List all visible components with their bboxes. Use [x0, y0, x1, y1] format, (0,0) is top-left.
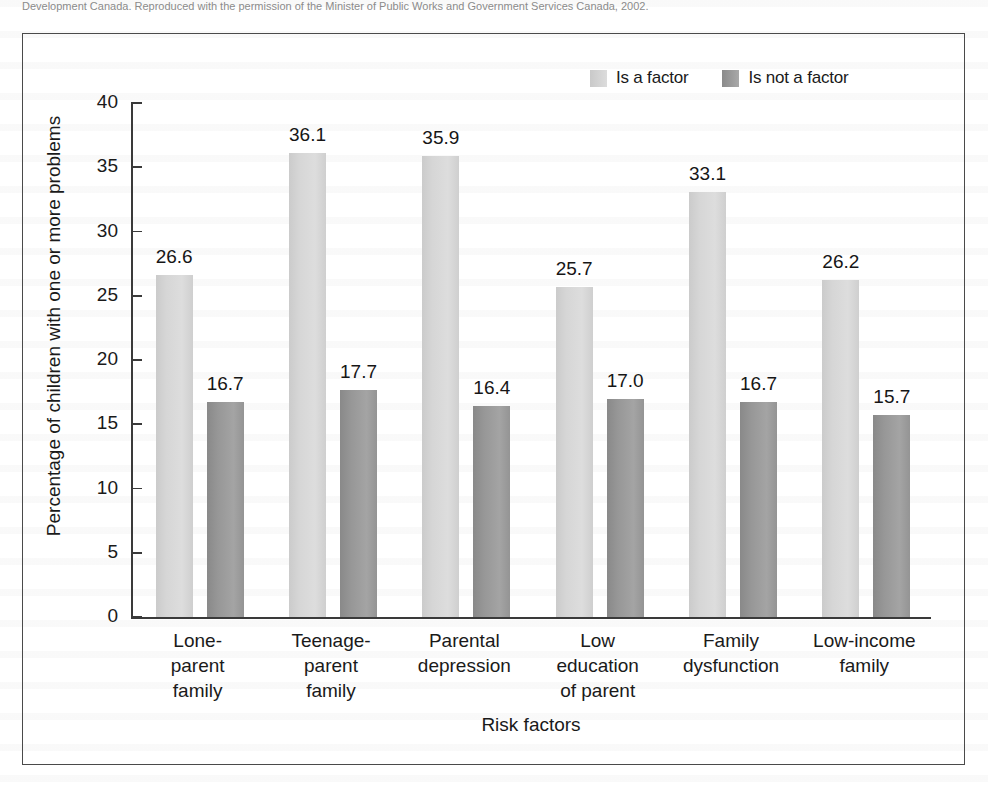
legend-label-is-not-a-factor: Is not a factor — [748, 68, 848, 88]
bar-is-a-factor-3[interactable]: 25.7 — [556, 287, 593, 617]
category-label-line: depression — [398, 653, 531, 678]
bar-value-label: 26.6 — [156, 246, 193, 268]
y-axis-tick-25 — [131, 295, 142, 297]
category-label-line: Teenage- — [264, 628, 397, 653]
bar-is-a-factor-2[interactable]: 35.9 — [422, 156, 459, 617]
y-axis-tick-label-35: 35 — [58, 155, 118, 177]
y-axis-tick-label-25: 25 — [58, 284, 118, 306]
bar-value-label: 36.1 — [289, 124, 326, 146]
x-axis-category-label-2: Parentaldepression — [398, 628, 531, 678]
x-axis-category-label-0: Lone-parentfamily — [131, 628, 264, 703]
x-axis-category-label-5: Low-incomefamily — [798, 628, 931, 678]
bar-value-label: 17.0 — [607, 370, 644, 392]
category-label-line: Family — [664, 628, 797, 653]
category-label-line: Low-income — [798, 628, 931, 653]
bar-is-not-a-factor-2[interactable]: 16.4 — [473, 406, 510, 617]
light-gray-swatch-icon — [590, 70, 607, 87]
bar-value-label: 16.4 — [473, 377, 510, 399]
x-axis-category-label-4: Familydysfunction — [664, 628, 797, 678]
bar-is-not-a-factor-4[interactable]: 16.7 — [740, 402, 777, 617]
y-axis-tick-label-10: 10 — [58, 477, 118, 499]
legend-entry-is-a-factor[interactable]: Is a factor — [590, 68, 688, 88]
bar-is-a-factor-5[interactable]: 26.2 — [822, 280, 859, 617]
y-axis-tick-15 — [131, 423, 142, 425]
bar-is-not-a-factor-1[interactable]: 17.7 — [340, 390, 377, 617]
y-axis-tick-20 — [131, 359, 142, 361]
bar-value-label: 35.9 — [422, 127, 459, 149]
bar-value-label: 25.7 — [556, 258, 593, 280]
y-axis-tick-label-20: 20 — [58, 348, 118, 370]
bar-is-not-a-factor-3[interactable]: 17.0 — [607, 399, 644, 617]
bar-is-a-factor-0[interactable]: 26.6 — [156, 275, 193, 617]
bar-is-not-a-factor-5[interactable]: 15.7 — [873, 415, 910, 617]
x-axis-category-label-3: Loweducationof parent — [531, 628, 664, 703]
bar-value-label: 33.1 — [689, 163, 726, 185]
figure-caption-strip: Development Canada. Reproduced with the … — [22, 0, 966, 14]
y-axis-tick-35 — [131, 166, 142, 168]
category-label-line: Low — [531, 628, 664, 653]
category-label-line: parent — [131, 653, 264, 678]
category-label-line: Lone- — [131, 628, 264, 653]
bar-value-label: 16.7 — [740, 373, 777, 395]
bar-is-a-factor-1[interactable]: 36.1 — [289, 153, 326, 617]
x-axis-category-label-1: Teenage-parentfamily — [264, 628, 397, 703]
y-axis-tick-30 — [131, 231, 142, 233]
y-axis-tick-40 — [131, 102, 142, 104]
bar-value-label: 15.7 — [873, 386, 910, 408]
bar-is-a-factor-4[interactable]: 33.1 — [689, 192, 726, 617]
category-label-line: family — [264, 678, 397, 703]
y-axis-tick-label-40: 40 — [58, 91, 118, 113]
bar-value-label: 26.2 — [822, 251, 859, 273]
y-axis-tick-label-0: 0 — [58, 605, 118, 627]
y-axis-tick-0 — [131, 616, 142, 618]
y-axis-tick-10 — [131, 488, 142, 490]
bar-is-not-a-factor-0[interactable]: 16.7 — [207, 402, 244, 617]
chart-legend: Is a factor Is not a factor — [590, 68, 848, 88]
category-label-line: Parental — [398, 628, 531, 653]
x-axis-title: Risk factors — [131, 714, 931, 736]
y-axis-tick-label-30: 30 — [58, 220, 118, 242]
y-axis-tick-label-5: 5 — [58, 541, 118, 563]
y-axis-tick-5 — [131, 552, 142, 554]
category-label-line: family — [131, 678, 264, 703]
legend-entry-is-not-a-factor[interactable]: Is not a factor — [722, 68, 848, 88]
category-label-line: education — [531, 653, 664, 678]
bar-value-label: 17.7 — [340, 361, 377, 383]
x-axis-line — [131, 617, 931, 619]
bar-value-label: 16.7 — [207, 373, 244, 395]
category-label-line: parent — [264, 653, 397, 678]
category-label-line: family — [798, 653, 931, 678]
y-axis-title: Percentage of children with one or more … — [43, 66, 65, 586]
category-label-line: dysfunction — [664, 653, 797, 678]
dark-gray-swatch-icon — [722, 70, 739, 87]
legend-label-is-a-factor: Is a factor — [616, 68, 688, 88]
plot-area: 26.616.736.117.735.916.425.717.033.116.7… — [131, 103, 931, 617]
y-axis-tick-label-15: 15 — [58, 412, 118, 434]
category-label-line: of parent — [531, 678, 664, 703]
